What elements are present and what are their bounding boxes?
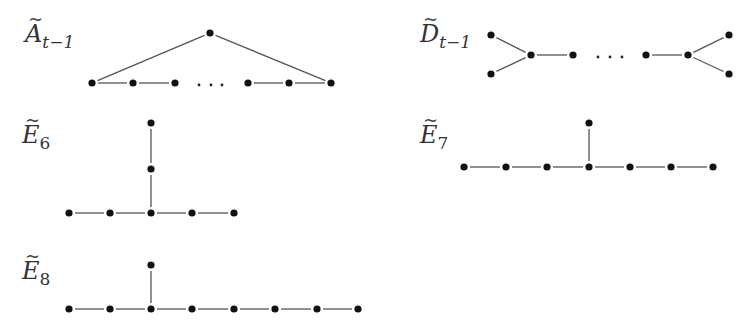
ellipsis-dot bbox=[221, 84, 224, 87]
vertex-node bbox=[147, 261, 154, 268]
label-e8-tilde: ~E8 bbox=[22, 259, 50, 288]
diagram-d bbox=[487, 31, 732, 77]
vertex-node bbox=[313, 305, 320, 312]
vertex-node bbox=[188, 305, 195, 312]
tilde-mark: ~ bbox=[25, 111, 40, 129]
vertex-node bbox=[684, 51, 691, 58]
diagram-e6 bbox=[65, 119, 237, 216]
tilde-mark: ~ bbox=[423, 10, 438, 28]
vertex-node bbox=[88, 79, 95, 86]
tilde-mark: ~ bbox=[28, 10, 43, 28]
vertex-node bbox=[502, 163, 509, 170]
vertex-node bbox=[65, 209, 72, 216]
edge bbox=[216, 35, 326, 80]
edge bbox=[496, 38, 525, 53]
vertex-node bbox=[65, 305, 72, 312]
label-subscript: 8 bbox=[40, 269, 51, 289]
label-d-tilde: ~Dt−1 bbox=[420, 22, 471, 51]
vertex-node bbox=[244, 79, 251, 86]
vertex-node bbox=[667, 163, 674, 170]
vertex-node bbox=[626, 163, 633, 170]
label-e6-tilde: ~E6 bbox=[22, 123, 50, 152]
edge bbox=[98, 35, 205, 80]
diagram-a bbox=[88, 29, 334, 86]
diagram-e8 bbox=[65, 261, 361, 312]
label-subscript: 7 bbox=[438, 133, 449, 153]
vertex-node bbox=[206, 29, 213, 36]
vertex-node bbox=[487, 70, 494, 77]
vertex-node bbox=[188, 209, 195, 216]
label-subscript: 6 bbox=[40, 133, 51, 153]
ellipsis-dot bbox=[597, 56, 600, 59]
dynkin-figure: ~At−1 ~Dt−1 ~E6 ~E7 ~E8 bbox=[0, 0, 753, 329]
vertex-node bbox=[147, 119, 154, 126]
label-e7-tilde: ~E7 bbox=[420, 123, 448, 152]
vertex-node bbox=[271, 305, 278, 312]
diagram-canvas bbox=[0, 0, 753, 329]
vertex-node bbox=[487, 31, 494, 38]
vertex-node bbox=[147, 209, 154, 216]
diagram-e7 bbox=[460, 119, 716, 170]
vertex-node bbox=[230, 209, 237, 216]
vertex-node bbox=[106, 209, 113, 216]
ellipsis-dot bbox=[609, 56, 612, 59]
vertex-node bbox=[230, 305, 237, 312]
tilde-mark: ~ bbox=[423, 111, 438, 129]
vertex-node bbox=[585, 119, 592, 126]
vertex-node bbox=[569, 51, 576, 58]
edge bbox=[496, 58, 525, 72]
vertex-node bbox=[709, 163, 716, 170]
vertex-node bbox=[147, 305, 154, 312]
vertex-node bbox=[285, 79, 292, 86]
label-a-tilde: ~At−1 bbox=[25, 22, 74, 51]
vertex-node bbox=[725, 70, 732, 77]
vertex-node bbox=[327, 79, 334, 86]
vertex-node bbox=[725, 31, 732, 38]
label-subscript: t−1 bbox=[439, 32, 471, 52]
vertex-node bbox=[129, 79, 136, 86]
label-subscript: t−1 bbox=[42, 32, 74, 52]
vertex-node bbox=[527, 51, 534, 58]
ellipsis-dot bbox=[210, 84, 213, 87]
vertex-node bbox=[106, 305, 113, 312]
vertex-node bbox=[147, 165, 154, 172]
vertex-node bbox=[642, 51, 649, 58]
edge bbox=[693, 38, 723, 53]
vertex-node bbox=[171, 79, 178, 86]
vertex-node bbox=[460, 163, 467, 170]
vertex-node bbox=[354, 305, 361, 312]
ellipsis-dot bbox=[198, 84, 201, 87]
vertex-node bbox=[585, 163, 592, 170]
ellipsis-dot bbox=[621, 56, 624, 59]
edge bbox=[693, 58, 723, 72]
tilde-mark: ~ bbox=[25, 247, 40, 265]
vertex-node bbox=[543, 163, 550, 170]
